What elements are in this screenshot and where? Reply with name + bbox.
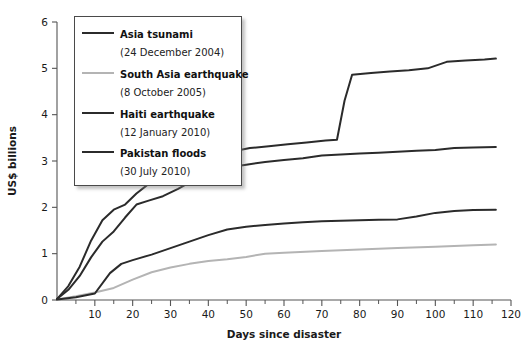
x-tick-label: 40: [202, 308, 215, 320]
y-tick-label: 5: [41, 62, 48, 74]
legend-label-pakistan-floods: Pakistan floods: [120, 148, 206, 159]
legend-line-swatch-south-asia-earthquake: [82, 67, 114, 79]
legend-date-south-asia-earthquake: (8 October 2005): [120, 87, 206, 98]
x-tick-label: 50: [239, 308, 252, 320]
y-axis: 0123456: [41, 16, 57, 306]
legend-line-swatch-asia-tsunami: [82, 27, 114, 39]
x-tick-label: 20: [126, 308, 139, 320]
legend-item: Haiti earthquake (12 January 2010): [82, 104, 234, 140]
legend-item: Asia tsunami (24 December 2004): [82, 24, 234, 60]
disaster-aid-line-chart: 0123456 102030405060708090100110120 Days…: [0, 0, 527, 350]
y-tick-label: 0: [41, 294, 48, 306]
legend-line-swatch-pakistan-floods: [82, 146, 114, 158]
chart-legend: Asia tsunami (24 December 2004) South As…: [74, 16, 242, 186]
y-axis-title: US$ billions: [6, 126, 18, 196]
legend-date-pakistan-floods: (30 July 2010): [120, 166, 190, 177]
y-tick-label: 1: [41, 247, 48, 259]
y-tick-label: 6: [41, 16, 48, 28]
legend-label-asia-tsunami: Asia tsunami: [120, 29, 193, 40]
series-line-pakistan-floods: [57, 210, 496, 300]
legend-item: South Asia earthquake (8 October 2005): [82, 64, 234, 100]
x-tick-label: 110: [463, 308, 483, 320]
legend-date-haiti-earthquake: (12 January 2010): [120, 127, 210, 138]
legend-label-haiti-earthquake: Haiti earthquake: [120, 109, 215, 120]
x-tick-label: 60: [277, 308, 290, 320]
x-tick-label: 80: [353, 308, 366, 320]
x-tick-label: 70: [315, 308, 328, 320]
legend-line-swatch-haiti-earthquake: [82, 107, 114, 119]
legend-date-asia-tsunami: (24 December 2004): [120, 47, 224, 58]
y-tick-label: 3: [41, 155, 48, 167]
x-tick-label: 120: [501, 308, 521, 320]
legend-label-south-asia-earthquake: South Asia earthquake: [120, 69, 248, 80]
legend-item: Pakistan floods (30 July 2010): [82, 143, 234, 179]
y-tick-label: 2: [41, 201, 48, 213]
series-line-south-asia-earthquake: [57, 244, 496, 299]
x-axis: 102030405060708090100110120: [57, 300, 521, 320]
x-tick-label: 90: [391, 308, 404, 320]
x-tick-label: 10: [88, 308, 101, 320]
x-axis-title: Days since disaster: [227, 328, 342, 340]
x-tick-label: 30: [164, 308, 177, 320]
x-tick-label: 100: [425, 308, 445, 320]
y-tick-label: 4: [41, 108, 48, 120]
